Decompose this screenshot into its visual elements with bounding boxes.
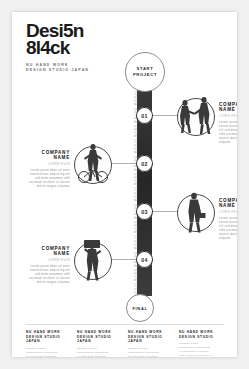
timeline-node-01-number: 01	[141, 113, 147, 119]
subtitle-line-2: DESIGN STUDIO JAPAN	[26, 68, 89, 73]
timeline-node-01[interactable]: 01	[136, 107, 153, 124]
company-block-02-lead: LOREM IPSUM	[26, 163, 70, 167]
final-label: FINAL	[133, 306, 148, 311]
photo-vignette-cyclist	[74, 146, 112, 184]
footer-column-1-body: LOREM IPSUM consectetuer adipiscing elit…	[26, 347, 70, 357]
company-block-03-lead: LOREM IPSUM	[219, 211, 237, 215]
company-block-03-heading: COMPANY NAME	[219, 198, 237, 208]
footer-column-3-heading: NU HAND WORKDESIGN STUDIO JAPAN	[128, 330, 172, 344]
company-block-01-heading: COMPANY NAME	[219, 102, 237, 112]
timeline-node-02[interactable]: 02	[136, 155, 153, 172]
company-block-01: COMPANY NAME LOREM IPSUM Lorem ipsum dol…	[219, 102, 237, 145]
company-block-03-body: Lorem ipsum dolor sit amet consectetuer …	[219, 217, 237, 242]
company-block-02-heading: COMPANY NAME	[26, 150, 70, 160]
footer-column-1: NU HAND WORKDESIGN STUDIO JAPAN LOREM IP…	[26, 330, 70, 357]
company-block-01-body: Lorem ipsum dolor sit amet consectetuer …	[219, 121, 237, 146]
company-block-04-body: Lorem ipsum dolor sit amet consectetuer …	[26, 265, 70, 285]
footer-column-2: NU HAND WORKDESIGN STUDIO JAPAN LOREM IP…	[77, 330, 121, 357]
company-block-01-lead: LOREM IPSUM	[219, 115, 237, 119]
photo-vignette-businessman-briefcase	[177, 194, 215, 232]
footer-column-1-heading: NU HAND WORKDESIGN STUDIO JAPAN	[26, 330, 70, 344]
timeline-node-03-number: 03	[141, 209, 147, 215]
footer-column-4: NU HAND WORKDESIGN STUDIO LOREM IPSUM co…	[179, 330, 223, 357]
timeline-node-04[interactable]: 04	[136, 251, 153, 268]
footer-column-2-body: LOREM IPSUM consectetuer adipiscing elit…	[77, 347, 121, 357]
company-block-04-heading: COMPANY NAME	[26, 246, 70, 256]
final-badge[interactable]: FINAL	[126, 294, 154, 322]
subtitle: NU HAND WORK DESIGN STUDIO JAPAN	[26, 63, 89, 74]
footer: NU HAND WORKDESIGN STUDIO JAPAN LOREM IP…	[26, 330, 224, 357]
footer-column-3-body: LOREM IPSUM consectetuer adipiscing elit…	[128, 347, 172, 357]
timeline-node-04-number: 04	[141, 257, 147, 263]
footer-column-4-heading: NU HAND WORKDESIGN STUDIO	[179, 330, 223, 339]
company-block-04: COMPANY NAME LOREM IPSUM Lorem ipsum dol…	[26, 246, 70, 285]
start-project-badge[interactable]: START PROJECT	[125, 52, 165, 92]
company-block-04-lead: LOREM IPSUM	[26, 259, 70, 263]
timeline-node-02-number: 02	[141, 161, 147, 167]
footer-column-3: NU HAND WORKDESIGN STUDIO JAPAN LOREM IP…	[128, 330, 172, 357]
company-block-02-body: Lorem ipsum dolor sit amet consectetuer …	[26, 169, 70, 189]
company-block-02: COMPANY NAME LOREM IPSUM Lorem ipsum dol…	[26, 150, 70, 189]
company-block-03: COMPANY NAME LOREM IPSUM Lorem ipsum dol…	[219, 198, 237, 241]
title-line-2: 8l4ck	[26, 39, 89, 56]
footer-divider	[26, 324, 224, 325]
timeline-node-03[interactable]: 03	[136, 203, 153, 220]
poster-canvas: Desi5n 8l4ck NU HAND WORK DESIGN STUDIO …	[12, 12, 237, 357]
start-label-line-2: PROJECT	[133, 72, 157, 78]
photo-vignette-handshake	[177, 98, 215, 136]
page-title: Desi5n 8l4ck NU HAND WORK DESIGN STUDIO …	[26, 22, 89, 74]
photo-vignette-carrying-box	[74, 242, 112, 280]
footer-column-4-body: LOREM IPSUM consectetuer adipiscing elit…	[179, 342, 223, 357]
footer-column-2-heading: NU HAND WORKDESIGN STUDIO JAPAN	[77, 330, 121, 344]
